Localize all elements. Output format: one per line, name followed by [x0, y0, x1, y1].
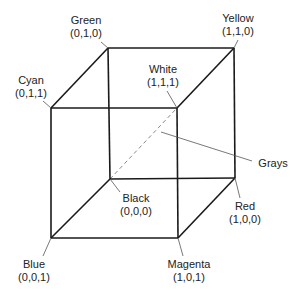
- vertex-coord: (0,1,0): [70, 27, 102, 40]
- vertex-name: Cyan: [15, 74, 47, 87]
- vertex-label-black: Black (0,0,0): [120, 192, 152, 218]
- vertex-label-red: Red (1,0,0): [229, 200, 261, 226]
- vertex-label-cyan: Cyan (0,1,1): [15, 74, 47, 100]
- vertex-name: White: [147, 63, 179, 76]
- vertex-coord: (1,0,1): [168, 271, 211, 284]
- vertex-name: Yellow: [222, 12, 254, 25]
- color-cube-diagram: [0, 0, 300, 299]
- vertex-coord: (0,1,1): [15, 87, 47, 100]
- vertex-name: Blue: [18, 258, 50, 271]
- vertex-coord: (1,0,0): [229, 213, 261, 226]
- vertex-coord: (0,0,0): [120, 205, 152, 218]
- grays-annotation: Grays: [258, 157, 287, 170]
- vertex-label-yellow: Yellow (1,1,0): [222, 12, 254, 38]
- vertex-coord: (0,0,1): [18, 271, 50, 284]
- vertex-name: Red: [229, 200, 261, 213]
- vertex-name: Black: [120, 192, 152, 205]
- vertex-coord: (1,1,1): [147, 76, 179, 89]
- vertex-coord: (1,1,0): [222, 25, 254, 38]
- vertex-name: Green: [70, 14, 102, 27]
- gray-diagonal: [110, 108, 177, 179]
- vertex-name: Magenta: [168, 258, 211, 271]
- vertex-label-green: Green (0,1,0): [70, 14, 102, 40]
- vertex-label-blue: Blue (0,0,1): [18, 258, 50, 284]
- vertex-label-magenta: Magenta (1,0,1): [168, 258, 211, 284]
- vertex-label-white: White (1,1,1): [147, 63, 179, 89]
